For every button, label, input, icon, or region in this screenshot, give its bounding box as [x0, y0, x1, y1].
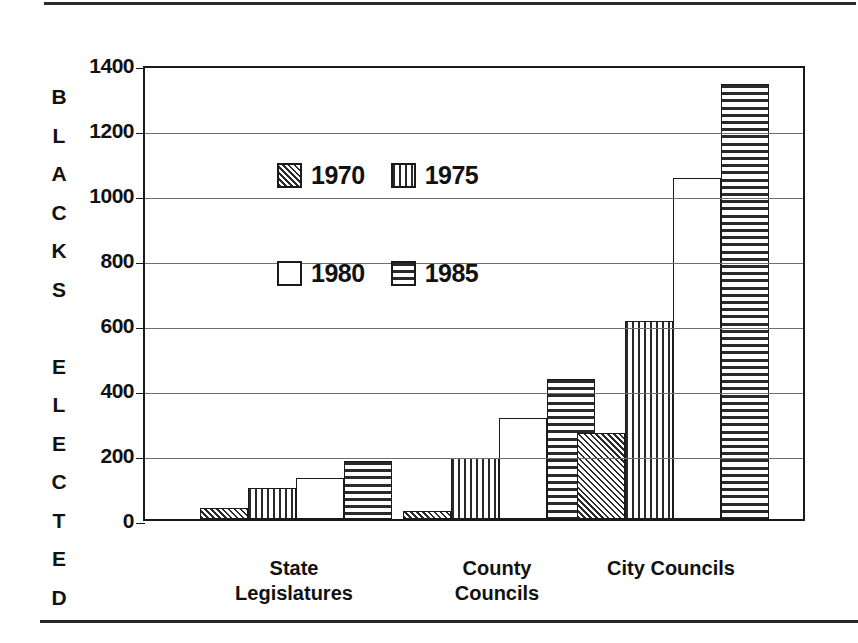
legend-label-1975: 1975 — [425, 161, 479, 190]
bar-1975-city-councils — [625, 321, 673, 519]
bar-1975-state-legislatures — [248, 488, 296, 519]
bar-1985-city-councils — [721, 84, 769, 520]
y-axis-tick-mark — [136, 198, 145, 199]
legend-item-1980[interactable]: 1980 — [277, 259, 365, 288]
bar-1985-state-legislatures — [344, 461, 392, 520]
y-axis-tick-mark — [136, 523, 145, 524]
y-axis-tick-label: 800 — [100, 249, 134, 273]
y-axis-tick-label: 400 — [100, 379, 134, 403]
legend-item-1975[interactable]: 1975 — [391, 161, 479, 190]
gridline — [145, 393, 803, 394]
y-axis-tick-label: 200 — [100, 444, 134, 468]
y-axis-tick-mark — [136, 393, 145, 394]
bar-1980-city-councils — [673, 178, 721, 519]
y-axis-caption-letter: D — [44, 579, 74, 618]
y-axis-tick-label: 1200 — [89, 119, 134, 143]
bar-1970-county-councils — [403, 511, 451, 519]
y-axis-tick-label: 1000 — [89, 184, 134, 208]
legend-row-bottom: 1980 1985 — [277, 256, 537, 290]
y-axis-tick-mark — [136, 263, 145, 264]
y-axis-tick-labels: 1400120010008006004002000 — [60, 66, 134, 521]
legend-swatch-1975-icon — [391, 163, 416, 188]
y-axis-tick-mark — [136, 133, 145, 134]
gridline — [145, 133, 803, 134]
chart-legend: 1970 1975 1980 1985 — [277, 158, 537, 290]
legend-swatch-1970-icon — [277, 163, 302, 188]
category-label-city-councils: City Councils — [545, 556, 797, 581]
y-axis-tick-mark — [136, 68, 145, 69]
bar-chart-figure: BLACKS.ELECTED 1400120010008006004002000… — [0, 0, 858, 643]
y-axis-tick-mark — [136, 458, 145, 459]
bar-1980-state-legislatures — [296, 478, 344, 519]
legend-item-1985[interactable]: 1985 — [391, 259, 479, 288]
legend-label-1970: 1970 — [311, 161, 365, 190]
bar-1980-county-councils — [499, 418, 547, 519]
legend-label-1980: 1980 — [311, 259, 365, 288]
y-axis-caption-letter: E — [44, 540, 74, 579]
legend-label-1985: 1985 — [425, 259, 479, 288]
bar-1975-county-councils — [451, 458, 499, 519]
legend-swatch-1985-icon — [391, 261, 416, 286]
y-axis-tick-label: 1400 — [89, 54, 134, 78]
bar-1970-state-legislatures — [200, 508, 248, 519]
y-axis-tick-mark — [136, 328, 145, 329]
plot-area — [143, 66, 805, 521]
legend-item-1970[interactable]: 1970 — [277, 161, 365, 190]
gridline — [145, 458, 803, 459]
legend-row-top: 1970 1975 — [277, 158, 537, 192]
y-axis-tick-label: 0 — [123, 509, 134, 533]
y-axis-tick-label: 600 — [100, 314, 134, 338]
legend-swatch-1980-icon — [277, 261, 302, 286]
bar-series-group — [145, 68, 803, 519]
gridline — [145, 328, 803, 329]
bar-1970-city-councils — [577, 433, 625, 519]
